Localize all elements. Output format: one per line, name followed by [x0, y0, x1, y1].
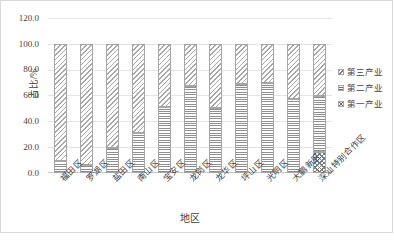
bar-group[interactable] — [209, 18, 222, 173]
bar-group[interactable] — [184, 18, 197, 173]
bar-segment-secondary[interactable] — [184, 86, 197, 173]
legend-swatch-secondary-icon — [338, 85, 344, 91]
bar-segment-tertiary[interactable] — [313, 44, 326, 96]
legend-label-tertiary: 第三产业 — [347, 68, 383, 77]
legend-swatch-tertiary-icon — [338, 69, 344, 75]
bar-segment-tertiary[interactable] — [106, 44, 119, 149]
y-axis-tick-120: 120.0 — [0, 14, 39, 23]
legend-item-primary: 第一产业 — [338, 96, 393, 112]
bar-segment-tertiary[interactable] — [54, 44, 67, 162]
bar-group[interactable] — [80, 18, 93, 173]
y-axis-tick-100: 100.0 — [0, 40, 39, 49]
legend-swatch-primary-icon — [338, 101, 344, 107]
bar-segment-tertiary[interactable] — [209, 44, 222, 109]
chart-legend: 第三产业 第二产业 第一产业 — [338, 64, 393, 112]
bar-segment-tertiary[interactable] — [235, 44, 248, 84]
bar-segment-tertiary[interactable] — [261, 44, 274, 83]
chart-frame: 占比/% 120.0 100.0 80.0 60.0 40.0 20.0 0.0… — [0, 0, 393, 233]
y-axis-tick-80: 80.0 — [0, 65, 39, 74]
y-axis-tick-60: 60.0 — [0, 91, 39, 100]
bar-segment-tertiary[interactable] — [132, 44, 145, 133]
bar-segment-tertiary[interactable] — [184, 44, 197, 87]
bar-group[interactable] — [158, 18, 171, 173]
bar-group[interactable] — [313, 18, 326, 173]
bar-segment-secondary[interactable] — [235, 84, 248, 173]
bar-group[interactable] — [235, 18, 248, 173]
y-axis-title: 占比/% — [29, 49, 39, 119]
legend-item-secondary: 第二产业 — [338, 80, 393, 96]
y-axis-tick-20: 20.0 — [0, 143, 39, 152]
plot-area — [48, 18, 332, 173]
bar-group[interactable] — [54, 18, 67, 173]
y-axis-tick-0: 0.0 — [0, 169, 39, 178]
bar-group[interactable] — [106, 18, 119, 173]
legend-label-primary: 第一产业 — [347, 100, 383, 109]
x-axis-title: 地区 — [48, 213, 332, 224]
legend-item-tertiary: 第三产业 — [338, 64, 393, 80]
legend-label-secondary: 第二产业 — [347, 84, 383, 93]
bar-segment-tertiary[interactable] — [158, 44, 171, 107]
bar-segment-tertiary[interactable] — [287, 44, 300, 100]
bar-segment-tertiary[interactable] — [80, 44, 93, 165]
bar-group[interactable] — [261, 18, 274, 173]
bar-group[interactable] — [287, 18, 300, 173]
bar-group[interactable] — [132, 18, 145, 173]
y-axis-tick-40: 40.0 — [0, 117, 39, 126]
bar-segment-secondary[interactable] — [261, 83, 274, 173]
bar-segment-secondary[interactable] — [313, 96, 326, 153]
